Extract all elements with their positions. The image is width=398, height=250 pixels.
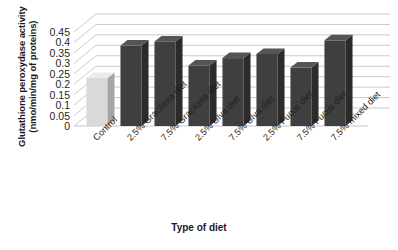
gridline-depth-5 (74, 56, 96, 74)
plot-area (72, 10, 392, 130)
plot-svg (72, 10, 392, 130)
y-axis-tick-labels: 00.050.10.150.20.250.30.350.40.45 (34, 13, 70, 126)
x-axis-category-labels: Control2.5% Gracilaria diet7.5% Gracilar… (0, 131, 398, 217)
bar-1 (120, 40, 148, 126)
y-tick-label: 0.4 (55, 37, 70, 48)
y-tick-label: 0.45 (50, 27, 70, 38)
y-tick-label: 0.15 (50, 89, 70, 100)
gridline-depth-9 (74, 14, 96, 32)
x-axis-title: Type of diet (0, 222, 398, 233)
y-tick-label: 0 (64, 121, 70, 132)
y-tick-label: 0.35 (50, 48, 70, 59)
y-tick-label: 0.3 (55, 58, 70, 69)
bar-front-face (120, 46, 141, 126)
gridline-depth-8 (74, 24, 96, 42)
gridline-depth-6 (74, 45, 96, 63)
bar-chart: Glutathione peroxydase activity (nmo/min… (0, 0, 398, 250)
y-tick-label: 0.05 (50, 110, 70, 121)
y-tick-label: 0.1 (55, 100, 70, 111)
y-tick-label: 0.2 (55, 79, 70, 90)
gridline-depth-7 (74, 35, 96, 53)
bar-front-face (86, 78, 107, 126)
y-tick-label: 0.25 (50, 69, 70, 80)
